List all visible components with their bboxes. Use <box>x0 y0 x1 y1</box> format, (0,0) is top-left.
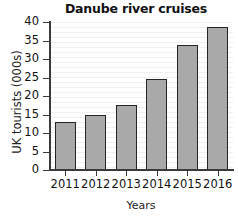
chart-title: Danube river cruises <box>38 1 234 16</box>
y-tick: 30 <box>43 59 49 60</box>
y-tick: 5 <box>43 152 49 153</box>
bar <box>55 122 76 170</box>
bar <box>207 27 228 170</box>
y-tick-label: 5 <box>32 144 39 159</box>
y-tick-label: 15 <box>24 107 39 122</box>
y-axis-line <box>49 21 51 171</box>
y-tick: 25 <box>43 78 49 79</box>
x-tick <box>218 171 219 176</box>
y-tick: 40 <box>43 22 49 23</box>
y-tick-label: 35 <box>24 33 39 48</box>
y-tick: 10 <box>43 133 49 134</box>
x-tick <box>157 171 158 176</box>
y-tick-label: 30 <box>24 51 39 66</box>
y-axis-title: UK tourists (000s) <box>10 27 24 177</box>
bar <box>146 79 167 170</box>
x-tick <box>187 171 188 176</box>
x-tick-label: 2016 <box>198 177 238 191</box>
x-tick <box>126 171 127 176</box>
plot-area <box>50 22 233 170</box>
y-tick: 20 <box>43 96 49 97</box>
y-tick-label: 40 <box>24 14 39 29</box>
x-axis-line <box>49 169 234 171</box>
y-tick-label: 20 <box>24 88 39 103</box>
gridlines <box>50 22 233 170</box>
x-axis-title: Years <box>48 199 234 212</box>
bar <box>177 45 198 170</box>
y-tick-label: 25 <box>24 70 39 85</box>
bar <box>85 115 106 171</box>
y-tick-label: 10 <box>24 125 39 140</box>
bar-chart: Danube river cruises UK tourists (000s) … <box>0 0 238 220</box>
y-tick: 15 <box>43 115 49 116</box>
x-tick <box>96 171 97 176</box>
y-tick: 0 <box>43 170 49 171</box>
x-tick <box>65 171 66 176</box>
y-tick: 35 <box>43 41 49 42</box>
y-tick-label: 0 <box>32 162 39 177</box>
bar <box>116 105 137 170</box>
